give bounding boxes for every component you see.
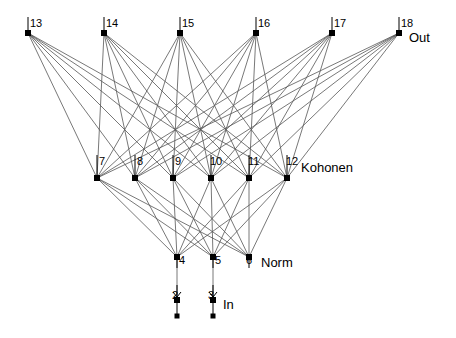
node-label-13: 13 (30, 17, 42, 29)
node-11[interactable] (246, 175, 252, 181)
node-10[interactable] (208, 175, 214, 181)
node-16[interactable] (253, 30, 259, 36)
node-7[interactable] (94, 175, 100, 181)
node-8[interactable] (132, 175, 138, 181)
node-label-4: 4 (179, 254, 185, 266)
node-label-16: 16 (258, 17, 270, 29)
node-label-10: 10 (210, 155, 222, 167)
node-label-15: 15 (182, 17, 194, 29)
node-label-11: 11 (248, 155, 259, 167)
node-label-6: 6 (246, 254, 252, 266)
stem-2-terminal (175, 314, 180, 319)
edge-kohonen-out (28, 33, 97, 178)
label-out: Out (409, 30, 430, 45)
node-label-8: 8 (137, 155, 143, 167)
node-label-18: 18 (401, 17, 413, 29)
node-label-3: 3 (208, 289, 214, 301)
edge-kohonen-out (28, 33, 211, 178)
edge-norm-kohonen (97, 178, 213, 257)
network-diagram-canvas: 23456789101112131415161718 OutKohonenNor… (0, 0, 456, 338)
label-kohonen: Kohonen (301, 160, 353, 175)
edge-norm-kohonen (249, 178, 287, 257)
network-diagram: 23456789101112131415161718 OutKohonenNor… (0, 0, 456, 338)
edge-kohonen-out (211, 33, 399, 178)
node-label-2: 2 (172, 289, 178, 301)
node-label-7: 7 (99, 155, 105, 167)
edge-kohonen-out (287, 33, 399, 178)
node-15[interactable] (177, 30, 183, 36)
label-in: In (223, 297, 234, 312)
node-9[interactable] (170, 175, 176, 181)
edge-norm-kohonen (97, 178, 177, 257)
stem-3-terminal (211, 314, 216, 319)
node-18[interactable] (396, 30, 402, 36)
node-label-9: 9 (175, 155, 181, 167)
node-label-17: 17 (334, 17, 346, 29)
node-label-14: 14 (106, 17, 118, 29)
node-labels-group: 23456789101112131415161718 (30, 17, 413, 301)
edge-kohonen-out (104, 33, 287, 178)
edge-norm-kohonen (97, 178, 249, 257)
node-13[interactable] (25, 30, 31, 36)
node-17[interactable] (329, 30, 335, 36)
node-label-5: 5 (215, 254, 221, 266)
node-14[interactable] (101, 30, 107, 36)
label-norm: Norm (261, 255, 293, 270)
edge-norm-kohonen (213, 178, 287, 257)
node-label-12: 12 (286, 155, 298, 167)
edge-norm-kohonen (135, 178, 177, 257)
node-12[interactable] (284, 175, 290, 181)
